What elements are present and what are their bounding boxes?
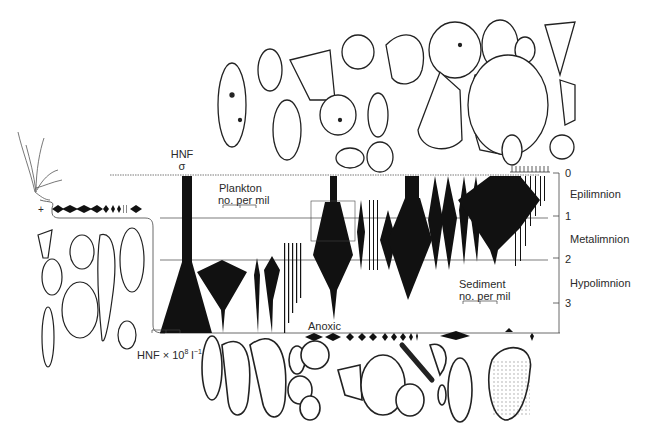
depth-tick-0: 0 [565, 167, 571, 179]
depth-tick-1: 1 [565, 210, 571, 222]
sediment-units: no. per mil [459, 290, 510, 302]
surface-ticks [510, 166, 550, 172]
zone-hypolimnion: Hypolimnion [570, 277, 631, 289]
zone-metalimnion: Metalimnion [570, 233, 629, 245]
grass-plant-icon [18, 132, 62, 200]
depth-axis [553, 173, 559, 333]
depth-tick-2: 2 [565, 253, 571, 265]
hnf-sigma: σ [170, 160, 194, 172]
hnf-scale-label: HNF × 108 l−1 [137, 346, 202, 361]
littoral-ciliate-drawings [38, 228, 144, 367]
depth-tick-3: 3 [565, 297, 571, 309]
sediment-label: Sediment [459, 278, 505, 290]
hnf-distribution [160, 176, 212, 333]
lake-profile-diagram [0, 0, 645, 445]
zone-epilimnion: Epilimnion [570, 188, 621, 200]
littoral-plus: + [38, 204, 44, 216]
benthic-ciliate-drawings [202, 336, 531, 422]
plankton-units: no. per mil [218, 194, 269, 206]
hnf-title: HNF [170, 148, 194, 160]
littoral-distribution [52, 205, 142, 213]
anoxic-label: Anoxic [308, 320, 341, 332]
plankton-label: Plankton [219, 182, 262, 194]
planktonic-ciliate-drawings [218, 20, 575, 172]
